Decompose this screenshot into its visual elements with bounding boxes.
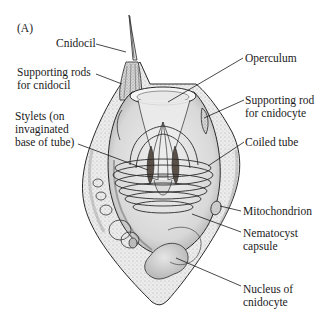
label-operculum: Operculum	[245, 52, 297, 65]
label-coiled-tube: Coiled tube	[245, 136, 298, 149]
cnidocyte-diagram: (A) Cnidocil Supporting rods for cnidoci…	[0, 0, 327, 328]
label-cnidocil: Cnidocil	[56, 37, 96, 50]
label-nematocyst-capsule: Nematocyst capsule	[243, 227, 298, 253]
leader-cnidocil	[96, 44, 126, 52]
label-supporting-rods-cnidocil: Supporting rods for cnidocil	[17, 66, 91, 92]
cnidocil	[129, 15, 137, 60]
label-stylets: Stylets (on invaginated base of tube)	[15, 110, 74, 149]
label-mitochondrion: Mitochondrion	[243, 205, 312, 218]
cnidocyte-illustration	[0, 0, 327, 328]
panel-label: (A)	[17, 22, 33, 35]
label-supporting-rod-cnidocyte: Supporting rod for cnidocyte	[245, 94, 314, 120]
label-nucleus: Nucleus of cnidocyte	[243, 283, 293, 309]
leader-supporting-rods-cnidocil	[96, 74, 122, 84]
